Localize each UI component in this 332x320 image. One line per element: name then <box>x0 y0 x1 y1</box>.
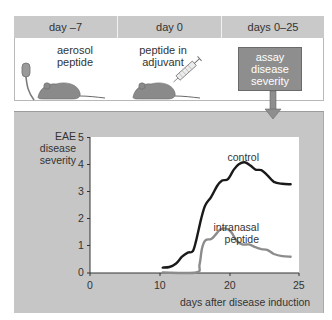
down-arrow-icon <box>265 91 281 119</box>
plot-area <box>90 137 299 273</box>
y-tick-label: 2 <box>78 212 84 224</box>
aerosol-icon <box>22 63 34 100</box>
y-axis-label-line: severity <box>22 154 76 166</box>
x-axis-label: days after disease induction <box>180 296 310 308</box>
x-tick-label: 25 <box>293 279 305 291</box>
syringe-icon <box>172 56 202 84</box>
label-line: peptide <box>200 233 259 245</box>
y-axis-label-line: EAE <box>22 130 76 142</box>
y-tick-label: 5 <box>78 131 84 143</box>
x-tick-label: 10 <box>154 279 166 291</box>
y-tick-label: 4 <box>78 158 84 170</box>
y-tick-label: 1 <box>78 239 84 251</box>
control-series-label: control <box>215 151 259 163</box>
intranasal-series-label: intranasal peptide <box>200 221 259 245</box>
label-line: intranasal <box>200 221 259 233</box>
x-tick-label: 0 <box>87 279 93 291</box>
y-tick-label: 3 <box>78 185 84 197</box>
mouse-icon <box>133 83 200 99</box>
y-axis-label-line: disease <box>22 142 76 154</box>
x-tick-label: 20 <box>224 279 236 291</box>
y-tick-label: 0 <box>78 266 84 278</box>
mouse-icon <box>38 83 105 99</box>
y-axis-label: EAE disease severity <box>22 130 76 166</box>
